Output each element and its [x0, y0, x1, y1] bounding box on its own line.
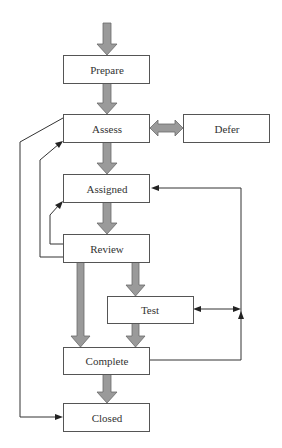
arrow-assess-to-assigned [97, 142, 117, 174]
node-test-label: Test [141, 304, 159, 316]
arrowhead-up-right-loop [238, 311, 244, 319]
line-review-to-assess [40, 144, 63, 257]
node-prepare: Prepare [64, 56, 150, 84]
arrow-review-to-test [126, 262, 145, 296]
line-review-to-assigned [50, 205, 63, 244]
node-review: Review [64, 235, 150, 263]
node-assigned: Assigned [64, 175, 150, 203]
arrowhead-into-closed [55, 414, 63, 420]
workflow-diagram: Prepare Assess Defer Assigned Review Tes… [0, 0, 282, 448]
arrow-start-to-prepare [97, 23, 117, 55]
node-assess: Assess [64, 115, 150, 143]
node-review-label: Review [90, 243, 124, 255]
line-complete-to-assigned [150, 188, 241, 360]
node-defer-label: Defer [214, 123, 239, 135]
arrowhead-into-assigned-right [151, 185, 159, 191]
node-closed: Closed [64, 404, 150, 432]
node-defer: Defer [184, 115, 270, 143]
arrow-prepare-to-assess [97, 83, 117, 114]
arrowhead-into-test [193, 306, 201, 312]
arrow-review-to-complete [71, 262, 90, 347]
node-complete-label: Complete [86, 355, 129, 367]
node-prepare-label: Prepare [90, 64, 124, 76]
arrowhead-into-right-loop [233, 306, 241, 312]
node-complete: Complete [64, 348, 150, 375]
arrow-test-to-complete [126, 323, 145, 347]
arrow-assigned-to-review [97, 202, 117, 234]
arrow-complete-to-closed [97, 374, 117, 403]
node-test: Test [108, 297, 194, 324]
node-assigned-label: Assigned [87, 183, 128, 195]
node-assess-label: Assess [92, 123, 122, 135]
arrow-assess-defer-bidirectional [150, 120, 183, 136]
node-closed-label: Closed [92, 412, 123, 424]
line-assess-to-closed [20, 118, 63, 417]
